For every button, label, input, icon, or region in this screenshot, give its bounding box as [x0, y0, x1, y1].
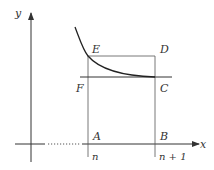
- point-label-E: E: [91, 43, 100, 56]
- y-axis-label: y: [14, 7, 22, 20]
- decreasing-curve: [75, 27, 155, 77]
- point-label-F: F: [75, 82, 84, 95]
- point-label-D: D: [159, 43, 169, 56]
- point-label-B: B: [159, 130, 168, 143]
- tick-label-n-plus-1: n + 1: [159, 151, 187, 162]
- tick-label-n: n: [92, 151, 98, 162]
- diagram-canvas: y x E D F C A B n n + 1: [0, 0, 214, 170]
- x-axis-label: x: [200, 138, 207, 151]
- diagram-svg: y x E D F C A B n n + 1: [0, 0, 214, 170]
- point-label-C: C: [160, 82, 169, 95]
- point-label-A: A: [92, 130, 101, 143]
